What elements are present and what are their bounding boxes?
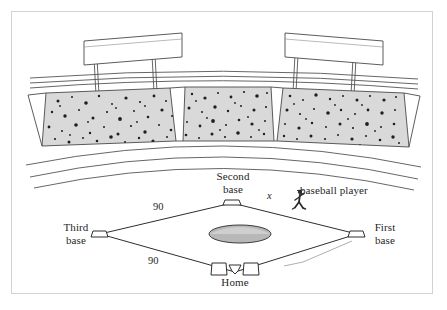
distance-90-home-third-label: 90 <box>148 255 159 268</box>
batters-box-left <box>211 263 227 275</box>
distance-90-third-second-label: 90 <box>153 201 164 214</box>
home-plate <box>229 265 241 274</box>
batters-box-right <box>243 263 259 275</box>
first-base-marker <box>348 231 365 237</box>
first-base-label-line1: First <box>366 221 404 234</box>
figure-canvas: Second base Third base First base Home b… <box>0 0 447 310</box>
second-base-marker <box>223 200 241 205</box>
third-base-label: Third base <box>57 221 95 246</box>
baseball-player-label: baseball player <box>300 184 368 197</box>
crowd-section-center <box>183 87 274 141</box>
first-base-label: First base <box>366 221 404 246</box>
first-base-label-line2: base <box>366 234 404 247</box>
second-base-label-line2: base <box>202 183 264 196</box>
right-billboard <box>285 33 383 65</box>
stadium-railing <box>30 71 418 89</box>
pitchers-mound <box>209 225 271 243</box>
home-plate-label: Home <box>210 276 260 289</box>
distance-x-label: x <box>267 190 272 203</box>
second-base-label-line1: Second <box>202 170 264 183</box>
third-base-label-line2: base <box>57 234 95 247</box>
second-base-label: Second base <box>202 170 264 195</box>
baseball-diagram-svg <box>0 0 447 310</box>
crowd-section-left <box>42 88 176 149</box>
crowd-section-right <box>277 88 409 147</box>
third-base-label-line1: Third <box>57 221 95 234</box>
left-billboard <box>84 33 182 65</box>
